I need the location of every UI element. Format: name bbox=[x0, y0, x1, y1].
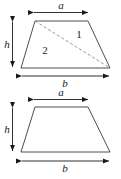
upper-h-label: h bbox=[4, 38, 10, 50]
lower-h-label: h bbox=[4, 123, 10, 135]
lower-trapezoid-group: a b h bbox=[4, 86, 110, 174]
upper-region-2-label: 2 bbox=[42, 44, 48, 56]
figure-canvas: a b h 1 2 a b h bbox=[0, 0, 121, 179]
geometry-figure: a b h 1 2 a b h bbox=[0, 0, 121, 179]
lower-a-label: a bbox=[58, 86, 64, 98]
upper-trapezoid-group: a b h 1 2 bbox=[4, 0, 110, 89]
upper-a-label: a bbox=[58, 0, 64, 11]
lower-b-label: b bbox=[62, 162, 68, 174]
lower-trapezoid-outline bbox=[21, 107, 110, 152]
upper-trapezoid-outline bbox=[21, 21, 110, 68]
upper-region-1-label: 1 bbox=[76, 28, 82, 40]
